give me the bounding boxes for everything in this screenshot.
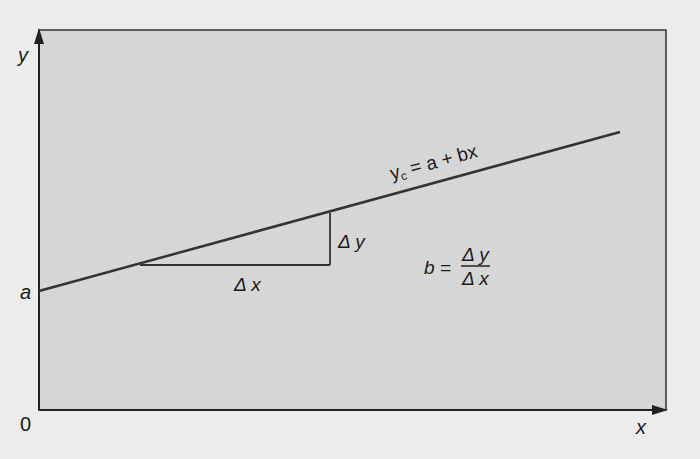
plot-panel [39, 30, 666, 410]
intercept-label: a [20, 281, 31, 303]
slope-lhs: b = [424, 257, 451, 278]
y-axis-label: y [16, 44, 29, 66]
slope-denominator: Δ x [461, 268, 490, 289]
origin-label: 0 [20, 413, 31, 435]
regression-diagram: y x 0 a yc = a + bx Δ x Δ y b = Δ y Δ x [0, 0, 700, 459]
slope-numerator: Δ y [461, 244, 490, 265]
delta-x-label: Δ x [233, 274, 262, 295]
delta-y-label: Δ y [337, 231, 366, 252]
x-axis-label: x [635, 416, 647, 438]
